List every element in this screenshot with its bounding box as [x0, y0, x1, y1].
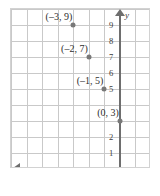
gridline-horizontal — [11, 121, 149, 122]
gridline-horizontal — [11, 25, 149, 26]
gridline-horizontal — [11, 41, 149, 42]
gridline-horizontal — [11, 105, 149, 106]
y-axis-tick-label: 1 — [109, 149, 113, 158]
y-axis-arrow-up-icon — [115, 9, 125, 16]
gridline-vertical — [89, 9, 90, 167]
y-axis-tick-label: 2 — [109, 133, 113, 142]
data-point — [117, 119, 122, 124]
gridline-vertical — [73, 9, 74, 167]
data-point — [86, 55, 91, 60]
gridline-horizontal — [11, 73, 149, 74]
coordinate-plane-figure: –6–5–4–3–2–11 9876521 x y (–3, 9)(–2, 7)… — [0, 0, 160, 196]
gridline-vertical — [58, 9, 59, 167]
y-axis-tick-label: 8 — [109, 37, 113, 46]
y-axis-tick-label: 5 — [109, 85, 113, 94]
data-point-label: (–1, 5) — [77, 76, 104, 86]
y-axis-line — [119, 13, 121, 168]
gridline-vertical — [11, 9, 12, 167]
data-point-label: (0, 3) — [97, 108, 119, 118]
y-axis-tick-label: 6 — [109, 69, 113, 78]
plot-area: –6–5–4–3–2–11 9876521 x y (–3, 9)(–2, 7)… — [10, 8, 150, 168]
y-axis-label: y — [125, 11, 129, 20]
gridline-vertical — [27, 9, 28, 167]
data-point — [102, 87, 107, 92]
y-axis-tick-label: 7 — [109, 53, 113, 62]
gridline-horizontal — [11, 57, 149, 58]
x-axis-arrow-left-icon — [13, 163, 20, 168]
data-point — [71, 23, 76, 28]
y-axis-tick-label: 9 — [109, 21, 113, 30]
gridline-horizontal — [11, 89, 149, 90]
gridline-horizontal — [11, 153, 149, 154]
data-point-label: (–3, 9) — [46, 12, 73, 22]
data-point-label: (–2, 7) — [61, 44, 88, 54]
gridline-vertical — [135, 9, 136, 167]
gridline-vertical — [42, 9, 43, 167]
gridline-horizontal — [11, 137, 149, 138]
